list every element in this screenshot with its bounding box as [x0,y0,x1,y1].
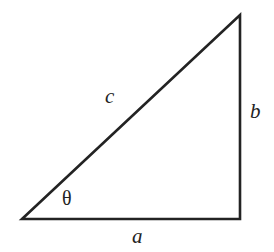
right-triangle-figure: c b a θ [0,0,274,252]
horizontal-leg-label-a: a [132,226,143,247]
triangle-outline [22,15,240,219]
angle-label-theta: θ [62,188,72,208]
hypotenuse-label-c: c [105,86,114,107]
triangle-drawing [0,0,274,252]
vertical-leg-label-b: b [250,101,261,122]
